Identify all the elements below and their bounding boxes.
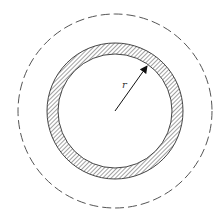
hatched-ring [0, 0, 223, 220]
diagram-canvas: r [0, 0, 223, 220]
